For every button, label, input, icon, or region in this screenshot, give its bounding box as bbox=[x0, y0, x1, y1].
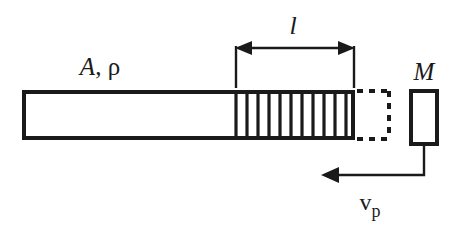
figure-canvas: A, ρ l M vp bbox=[0, 0, 463, 230]
dimension-arrowhead-left bbox=[235, 41, 252, 55]
velocity-arrowhead bbox=[321, 167, 339, 183]
impacting-mass bbox=[411, 91, 437, 144]
velocity-label: vp bbox=[360, 189, 381, 221]
displaced-bar-end-outline bbox=[357, 91, 391, 139]
schematic-drawing: A, ρ l M vp bbox=[0, 0, 463, 230]
velocity-base-symbol: v bbox=[360, 189, 372, 215]
velocity-subscript: p bbox=[372, 201, 381, 221]
dimension-arrowhead-right bbox=[338, 41, 355, 55]
bar-properties-label: A, ρ bbox=[78, 53, 120, 80]
mass-label: M bbox=[413, 58, 436, 85]
elastic-bar bbox=[24, 92, 353, 138]
label-separator: , bbox=[95, 53, 108, 80]
velocity-vector-path bbox=[326, 144, 424, 175]
area-symbol: A bbox=[78, 53, 96, 80]
density-symbol: ρ bbox=[108, 53, 120, 80]
wave-length-label: l bbox=[289, 11, 296, 40]
